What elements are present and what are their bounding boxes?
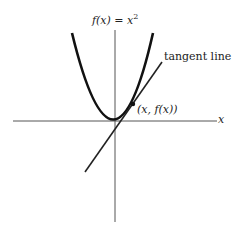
function-label: f(x) = x2 [92, 13, 138, 26]
diagram-canvas [0, 0, 236, 230]
x-axis-label: x [218, 114, 224, 125]
point-label: (x, f(x)) [137, 104, 178, 115]
function-label-exponent: 2 [133, 12, 138, 21]
tangent-line [85, 62, 162, 172]
tangent-line-label: tangent line [164, 51, 231, 62]
function-label-text: f(x) = x [92, 14, 133, 27]
tangency-point [131, 102, 135, 106]
